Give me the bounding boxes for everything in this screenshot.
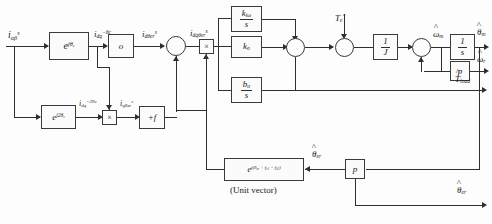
wire-mul-unitvector-input <box>206 54 207 110</box>
block-diagram-canvas: iαβs ejθc idq−θc o idθers idqθers × kiω … <box>0 0 492 224</box>
signal-label-theta-m-hat: θm <box>477 28 485 38</box>
block-filter-o: o <box>108 34 134 58</box>
wire-sum-torque-to-invJ <box>354 47 374 48</box>
wire-dq-branch-down <box>97 46 98 67</box>
wire-unitvector-up <box>206 110 207 169</box>
wire-dq-branch-to-mul2 <box>97 67 110 68</box>
summing-junction-torque <box>335 38 354 57</box>
arrow-tload-output <box>482 87 487 93</box>
arrow-omega-r-output <box>484 68 489 74</box>
block-rotation-negative: ej2θc <box>41 105 76 129</box>
wire-input-to-rot <box>6 46 48 47</box>
wire-p-to-unitvector <box>305 169 345 170</box>
signal-label-theta-er-hat-output: θer <box>457 186 466 196</box>
signal-label-i-alpha-beta: iαβs <box>8 30 20 41</box>
wire-theta-m-to-p-er <box>366 169 480 170</box>
wire-theta-m-down-to-unitvector <box>479 47 480 170</box>
signal-label-t-load-hat: Tload <box>455 75 470 85</box>
wire-omega-to-p <box>424 71 451 72</box>
block-inverse-inertia: 1 J <box>373 34 398 60</box>
signal-label-omega-m-hat: ωm <box>433 30 443 40</box>
multiplier-demodulation[interactable]: × <box>199 39 214 54</box>
arrow-theta-er-output <box>482 202 487 208</box>
summing-junction-speed <box>286 38 305 57</box>
wire-bus-to-kio <box>218 18 232 19</box>
signal-label-i-d-theta-er: idθers <box>142 30 157 40</box>
block-gain-k-i-omega: kiω s <box>231 6 262 32</box>
summing-junction-omega <box>412 38 431 57</box>
signal-label-i-q-theta-er: iqθers <box>120 100 133 109</box>
block-gain-k-o: ko <box>231 36 262 58</box>
block-integrator: 1 s <box>450 34 475 60</box>
block-rotation-forward: ejθc <box>49 32 89 60</box>
arrow-down-into-multiplier-lower <box>106 105 112 110</box>
wire-torque-ref-in <box>344 14 345 36</box>
signal-label-i-dq-2theta: idq−2θc <box>79 100 97 109</box>
summing-junction-input <box>166 36 186 56</box>
bus-vertical-parallel-gains <box>218 18 219 90</box>
wire-input-branch-down <box>14 46 15 118</box>
wire-theta-er-output <box>355 205 485 206</box>
wire-mul2-input-from-dq <box>109 67 110 110</box>
arrow-up-into-sum-input <box>173 56 179 61</box>
block-plus-f: +f <box>139 106 165 129</box>
arrow-theta-m-output <box>484 44 489 50</box>
block-unit-vector: ej(θer + fs1 − fs2) <box>224 158 304 181</box>
wire-unitvector-out-left <box>206 169 224 170</box>
wire-unitvector-branch-left <box>176 110 206 111</box>
signal-label-theta-er-hat: θer <box>312 150 321 160</box>
wire-mul-to-bus <box>214 46 232 47</box>
arrow-up-into-sum-omega <box>418 57 424 62</box>
wire-bus-to-bo <box>218 90 232 91</box>
wire-bo-to-tload-output <box>262 90 484 91</box>
block-gain-b-o: bo s <box>231 77 262 103</box>
arrow-left-into-unitvector <box>305 166 310 172</box>
signal-label-i-dq-theta-er: idqθers <box>190 29 208 39</box>
wire-sum-to-mul <box>186 46 200 47</box>
wire-bo-branch-up <box>295 57 296 90</box>
block-pole-pairs-position: p <box>345 159 365 179</box>
wire-omega-branch-down <box>441 47 442 72</box>
wire-sum-input-feedback <box>176 56 177 112</box>
wire-theta-er-down <box>355 179 356 206</box>
arrow-into-sum-input <box>160 43 165 49</box>
arrow-into-sum-torque <box>329 44 334 50</box>
wire-plusf-to-sum-input <box>165 117 177 118</box>
caption-unit-vector: (Unit vector) <box>230 185 277 195</box>
multiplier-lower[interactable]: × <box>102 110 117 125</box>
arrow-up-into-multiplier <box>203 54 209 59</box>
wire-kio-out <box>262 19 296 20</box>
